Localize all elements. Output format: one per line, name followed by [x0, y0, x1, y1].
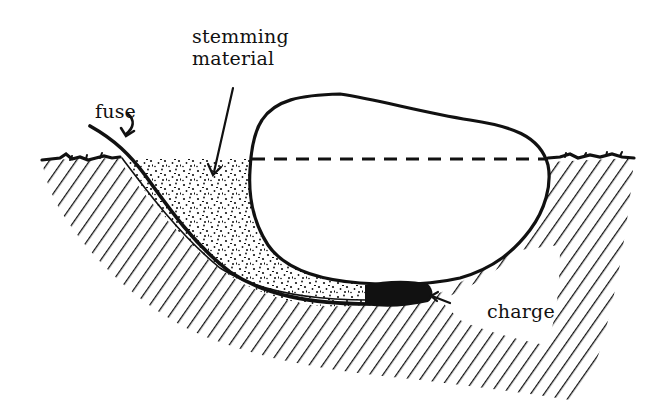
stemming-material-label: stemming material	[192, 25, 289, 69]
stemming-label-line2: material	[192, 47, 289, 69]
charge-label: charge	[487, 300, 555, 322]
boulder	[250, 94, 549, 285]
boulder-blasting-diagram: stemming material fuse charge	[0, 0, 664, 407]
diagram-canvas	[0, 0, 664, 407]
stemming-label-line1: stemming	[192, 25, 289, 47]
charge	[365, 281, 433, 307]
fuse-label: fuse	[95, 100, 136, 122]
